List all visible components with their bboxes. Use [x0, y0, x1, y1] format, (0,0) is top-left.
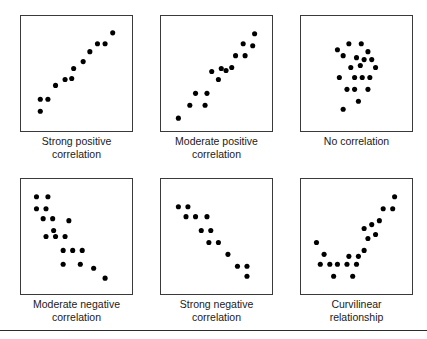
- data-point: [103, 41, 108, 46]
- data-point: [244, 264, 249, 269]
- scatter-canvas-no-correlation: [301, 16, 412, 131]
- data-point: [78, 262, 83, 267]
- data-point: [38, 97, 43, 102]
- panel-caption-no-correlation: No correlation: [286, 135, 427, 148]
- data-point: [185, 204, 190, 209]
- data-point: [43, 206, 48, 211]
- data-point: [41, 216, 46, 221]
- caption-line-1: Moderate negative: [6, 298, 147, 311]
- caption-line-2: correlation: [146, 311, 287, 324]
- data-point: [193, 214, 198, 219]
- data-point: [356, 99, 361, 104]
- data-point: [208, 228, 213, 233]
- data-point: [225, 252, 230, 257]
- scatter-canvas-strong-positive: [21, 16, 132, 131]
- data-point: [243, 53, 248, 58]
- data-point: [337, 75, 342, 80]
- data-point: [252, 31, 257, 36]
- data-point: [183, 214, 188, 219]
- data-point: [322, 252, 327, 257]
- data-point: [53, 234, 58, 239]
- data-point: [392, 194, 397, 199]
- data-point: [344, 87, 349, 92]
- data-point: [66, 218, 71, 223]
- data-point: [206, 240, 211, 245]
- data-point: [233, 53, 238, 58]
- data-point: [356, 254, 361, 259]
- caption-line-1: Moderate positive: [146, 135, 287, 148]
- data-point: [71, 66, 76, 71]
- data-point: [204, 91, 209, 96]
- data-point: [244, 274, 249, 279]
- data-point: [354, 55, 359, 60]
- data-point: [187, 103, 192, 108]
- scatter-canvas-strong-negative: [161, 179, 272, 294]
- data-point: [365, 236, 370, 241]
- data-point: [193, 91, 198, 96]
- panel-caption-moderate-positive: Moderate positivecorrelation: [146, 135, 287, 160]
- data-point: [362, 248, 367, 253]
- data-point: [81, 59, 86, 64]
- data-point: [341, 53, 346, 58]
- data-point: [95, 41, 100, 46]
- data-point: [331, 274, 336, 279]
- data-point: [341, 107, 346, 112]
- data-point: [51, 228, 56, 233]
- data-point: [365, 49, 370, 54]
- data-point: [327, 262, 332, 267]
- data-point: [63, 234, 68, 239]
- data-point: [219, 66, 224, 71]
- data-point: [335, 262, 340, 267]
- data-point: [373, 232, 378, 237]
- data-point: [352, 75, 357, 80]
- data-point: [91, 266, 96, 271]
- scatter-canvas-moderate-negative: [21, 179, 132, 294]
- caption-line-1: No correlation: [286, 135, 427, 148]
- bottom-divider: [0, 330, 427, 331]
- scatter-plot-moderate-negative: [20, 178, 133, 295]
- caption-line-2: relationship: [286, 311, 427, 324]
- panel-caption-strong-positive: Strong positivecorrelation: [6, 135, 147, 160]
- caption-line-2: correlation: [146, 148, 287, 161]
- scatter-plot-strong-negative: [160, 178, 273, 295]
- data-point: [362, 57, 367, 62]
- data-point: [204, 214, 209, 219]
- scatter-canvas-moderate-positive: [161, 16, 272, 131]
- data-point: [176, 116, 181, 121]
- data-point: [34, 206, 39, 211]
- caption-line-1: Strong positive: [6, 135, 147, 148]
- data-point: [369, 222, 374, 227]
- caption-line-2: correlation: [6, 311, 147, 324]
- data-point: [110, 30, 115, 35]
- data-point: [250, 43, 255, 48]
- data-point: [199, 228, 204, 233]
- data-point: [369, 57, 374, 62]
- data-point: [350, 274, 355, 279]
- data-point: [373, 65, 378, 70]
- data-point: [346, 41, 351, 46]
- panel-caption-strong-negative: Strong negativecorrelation: [146, 298, 287, 323]
- data-point: [53, 83, 58, 88]
- data-point: [362, 226, 367, 231]
- panel-caption-curvilinear: Curvilinearrelationship: [286, 298, 427, 323]
- data-point: [70, 248, 75, 253]
- scatter-canvas-curvilinear: [301, 179, 412, 294]
- data-point: [367, 75, 372, 80]
- data-point: [358, 63, 363, 68]
- data-point: [377, 218, 382, 223]
- data-point: [216, 240, 221, 245]
- data-point: [203, 103, 208, 108]
- data-point: [318, 262, 323, 267]
- data-point: [235, 264, 240, 269]
- data-point: [352, 87, 357, 92]
- data-point: [365, 87, 370, 92]
- data-point: [241, 41, 246, 46]
- scatter-plot-moderate-positive: [160, 15, 273, 132]
- data-point: [223, 68, 228, 73]
- data-point: [360, 75, 365, 80]
- data-point: [63, 77, 68, 82]
- panel-grid: Strong positivecorrelationModerate posit…: [0, 0, 427, 339]
- scatter-plot-strong-positive: [20, 15, 133, 132]
- data-point: [34, 194, 39, 199]
- data-point: [390, 206, 395, 211]
